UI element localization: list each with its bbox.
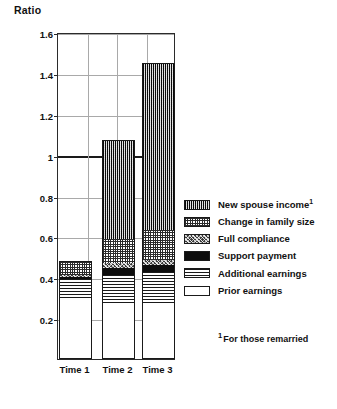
bar-segment-support-payment [142, 265, 175, 272]
x-axis-label-time-3: Time 3 [143, 364, 173, 375]
footnote-marker: 1 [218, 331, 222, 340]
y-axis-tick-label: 0.2 [13, 315, 53, 326]
bar-segment-prior-earnings [142, 304, 175, 359]
legend-item-prior-earnings[interactable]: Prior earnings [184, 282, 334, 299]
bar-segment-new-spouse-income [142, 63, 175, 231]
legend-label: Additional earnings [218, 269, 307, 279]
footnote: 1For those remarried [218, 331, 308, 344]
legend-item-additional-earnings[interactable]: Additional earnings [184, 265, 334, 282]
bar-segment-prior-earnings [59, 300, 92, 359]
gridline [58, 34, 174, 35]
bar-time-3 [142, 63, 175, 359]
y-axis-tick-label: 1.2 [13, 110, 53, 121]
y-axis-tick-mark [54, 75, 58, 76]
legend-label: Change in family size [218, 217, 315, 227]
y-axis-tick-mark [54, 279, 58, 280]
stacked-bar-chart-figure: Ratio 0.20.40.60.811.21.41.6 Time 1Time … [0, 0, 337, 409]
plot-area: 0.20.40.60.811.21.41.6 [57, 33, 175, 360]
legend-swatch-prior-earnings [184, 286, 210, 296]
y-axis-tick-label: 1.4 [13, 69, 53, 80]
y-axis-tick-label: 1 [13, 151, 53, 162]
y-axis-tick-label: 0.6 [13, 233, 53, 244]
legend-swatch-support-payment [184, 251, 210, 261]
bar-segment-change-in-family-size [59, 261, 92, 275]
footnote-text: For those remarried [223, 334, 308, 344]
bar-segment-support-payment [59, 277, 92, 279]
legend-swatch-additional-earnings [184, 268, 210, 278]
y-axis-tick-mark [54, 157, 58, 158]
legend-swatch-change-in-family-size [184, 217, 210, 227]
bar-segment-additional-earnings [102, 275, 135, 303]
y-axis-tick-mark [54, 34, 58, 35]
bar-segment-additional-earnings [142, 272, 175, 304]
bar-segment-full-compliance [102, 263, 135, 268]
legend-item-change-in-family-size[interactable]: Change in family size [184, 213, 334, 230]
bar-segment-support-payment [102, 268, 135, 275]
y-axis-tick-mark [54, 116, 58, 117]
legend-label: Prior earnings [218, 286, 282, 296]
y-axis-tick-label: 0.8 [13, 192, 53, 203]
x-axis-label-time-2: Time 2 [103, 364, 133, 375]
legend-label: Full compliance [218, 234, 290, 244]
y-axis-tick-label: 1.6 [13, 29, 53, 40]
y-axis-tick-mark [54, 238, 58, 239]
legend-label: Support payment [218, 251, 296, 261]
y-axis-tick-mark [54, 320, 58, 321]
bar-segment-additional-earnings [59, 279, 92, 299]
legend-item-new-spouse-income[interactable]: New spouse income1 [184, 196, 334, 213]
y-axis-tick-mark [54, 198, 58, 199]
y-axis-tick-label: 0.4 [13, 274, 53, 285]
bar-time-1 [59, 261, 92, 359]
bar-segment-change-in-family-size [102, 239, 135, 263]
legend-superscript-marker: 1 [309, 198, 313, 205]
bar-time-2 [102, 140, 135, 359]
legend-item-full-compliance[interactable]: Full compliance [184, 230, 334, 247]
y-axis-title: Ratio [14, 4, 41, 16]
bar-segment-prior-earnings [102, 303, 135, 359]
legend-item-support-payment[interactable]: Support payment [184, 248, 334, 265]
legend-swatch-new-spouse-income [184, 200, 210, 210]
legend-swatch-full-compliance [184, 234, 210, 244]
legend: New spouse income1Change in family sizeF… [184, 196, 334, 299]
x-axis-label-time-1: Time 1 [60, 364, 90, 375]
bar-segment-change-in-family-size [142, 230, 175, 260]
bar-segment-full-compliance [59, 275, 92, 277]
bar-segment-new-spouse-income [102, 140, 135, 239]
bar-segment-full-compliance [142, 260, 175, 265]
legend-label: New spouse income1 [218, 199, 313, 210]
